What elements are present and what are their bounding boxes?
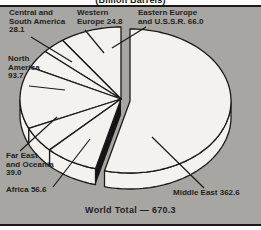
label-western-europe: Western Europe 24.8 (77, 9, 122, 26)
label-middle-east: Middle East 362.6 (173, 189, 240, 198)
label-central-south-america: Central and South America 28.1 (9, 9, 65, 35)
label-line: Middle East 362.6 (173, 189, 240, 198)
label-line: 39.0 (6, 169, 54, 178)
world-total-caption: World Total — 670.3 (0, 205, 261, 215)
label-line: 93.7 (8, 72, 40, 81)
label-line: 28.1 (9, 26, 65, 35)
chart-title-text: (Billion Barrels) (0, 0, 261, 5)
label-africa: Africa 56.6 (6, 186, 46, 195)
label-line: Africa 56.6 (6, 186, 46, 195)
label-eastern-europe-ussr: Eastern Europe and U.S.S.R. 66.0 (138, 9, 203, 26)
label-far-east-oceania: Far East and Oceania 39.0 (6, 152, 54, 178)
label-north-america: North America 93.7 (8, 55, 40, 81)
chart-title-clipped: (Billion Barrels) (0, 0, 261, 5)
chart-page: (Billion Barrels) Eastern Europe and U.S… (0, 0, 261, 230)
label-line: and U.S.S.R. 66.0 (138, 18, 203, 27)
label-line: Europe 24.8 (77, 18, 122, 27)
